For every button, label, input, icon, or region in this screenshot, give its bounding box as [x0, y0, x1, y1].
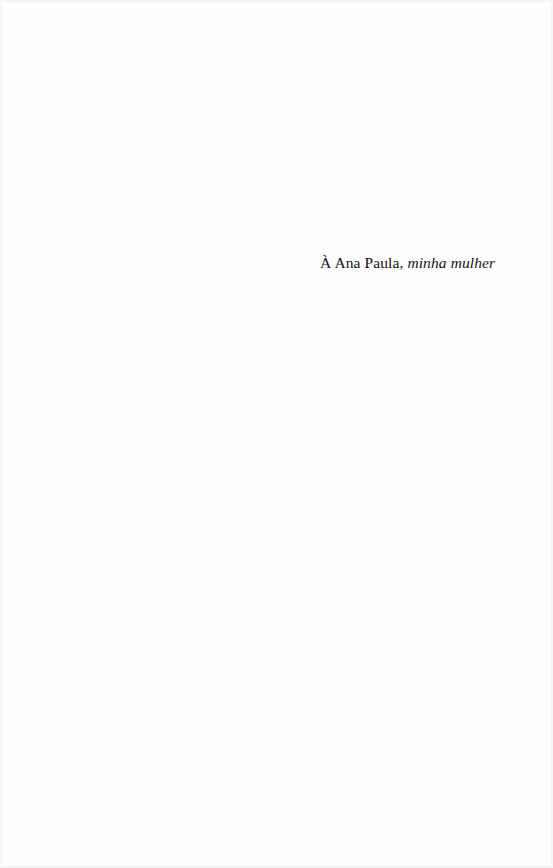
dedication-text: À Ana Paula, minha mulher	[320, 254, 495, 272]
book-page: À Ana Paula, minha mulher	[2, 2, 551, 866]
dedication-relation: minha mulher	[407, 254, 495, 271]
dedication-recipient: À Ana Paula,	[320, 254, 403, 271]
